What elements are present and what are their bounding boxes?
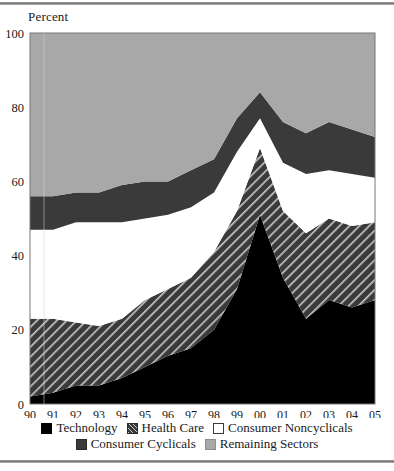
legend-row: TechnologyHealth CareConsumer Noncyclica…	[0, 421, 394, 435]
y-tick-label: 40	[12, 249, 25, 263]
x-tick-label: 90	[24, 408, 36, 418]
y-tick-label: 60	[12, 175, 25, 189]
y-tick-label: 20	[12, 323, 25, 337]
y-tick-label: 100	[5, 27, 24, 41]
x-tick-label: 99	[231, 408, 243, 418]
legend-label: Technology	[56, 421, 117, 435]
chart-areas	[30, 33, 375, 404]
legend-row: Consumer CyclicalsRemaining Sectors	[0, 437, 394, 451]
x-tick-label: 97	[185, 408, 197, 418]
x-tick-label: 93	[93, 408, 105, 418]
x-tick-label: 03	[323, 408, 335, 418]
x-tick-label: 05	[369, 408, 381, 418]
legend-item-consumer-cyclicals[interactable]: Consumer Cyclicals	[76, 437, 196, 451]
x-tick-label: 92	[70, 408, 82, 418]
x-tick-label: 98	[208, 408, 220, 418]
x-tick-label: 91	[47, 408, 59, 418]
x-axis-ticks: 90919293949596979899000102030405	[24, 408, 381, 418]
x-tick-label: 95	[139, 408, 151, 418]
legend-swatch-remaining-sectors-icon	[205, 439, 216, 450]
x-tick-label: 94	[116, 408, 128, 418]
x-tick-label: 01	[277, 408, 289, 418]
legend-label: Consumer Cyclicals	[91, 437, 196, 451]
legend-label: Remaining Sectors	[220, 437, 319, 451]
x-tick-label: 00	[254, 408, 266, 418]
legend-item-remaining-sectors[interactable]: Remaining Sectors	[205, 437, 319, 451]
legend-swatch-consumer-cyclicals-icon	[76, 439, 87, 450]
legend-swatch-consumer-noncyclicals-icon	[213, 423, 224, 434]
x-tick-label: 02	[300, 408, 312, 418]
stacked-area-chart: 020406080100 909192939495969798990001020…	[0, 0, 394, 418]
legend-item-consumer-noncyclicals[interactable]: Consumer Noncyclicals	[213, 421, 353, 435]
chart-legend: TechnologyHealth CareConsumer Noncyclica…	[0, 421, 394, 452]
legend-label: Consumer Noncyclicals	[228, 421, 353, 435]
legend-swatch-health-care-icon	[127, 423, 138, 434]
y-tick-label: 80	[12, 101, 25, 115]
y-axis-ticks: 020406080100	[5, 27, 24, 412]
x-tick-label: 96	[162, 408, 174, 418]
x-tick-label: 04	[346, 408, 358, 418]
bottom-horizontal-rule	[0, 460, 394, 463]
legend-label: Health Care	[142, 421, 204, 435]
legend-swatch-technology-icon	[41, 423, 52, 434]
legend-item-technology[interactable]: Technology	[41, 421, 117, 435]
legend-item-health-care[interactable]: Health Care	[127, 421, 204, 435]
